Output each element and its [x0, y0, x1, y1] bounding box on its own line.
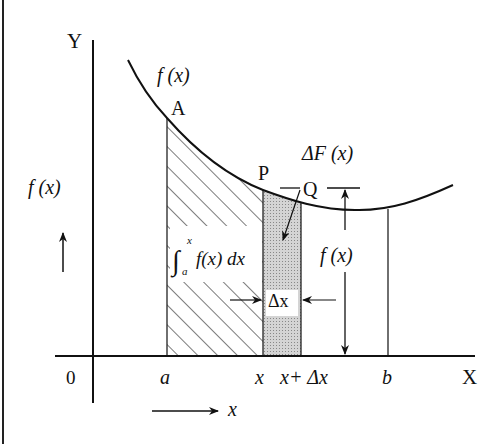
delta-x-label: Δx [268, 291, 289, 311]
integral-upper-limit: x [186, 234, 192, 246]
tick-a-label: a [160, 366, 170, 388]
point-q-label: Q [303, 178, 318, 200]
y-axis-label: Y [67, 29, 82, 53]
tick-b-label: b [382, 366, 392, 388]
integral-lower-limit: a [182, 265, 188, 277]
height-label: f (x) [320, 244, 353, 267]
delta-strip-region [263, 190, 301, 356]
tick-x-label: x [254, 366, 264, 388]
curve-label: f (x) [157, 64, 190, 87]
tick-x-plus-dx-label: x+ Δx [279, 366, 328, 388]
point-a-label: A [171, 97, 186, 119]
integral-diagram: Y X 0 f (x) A P Q ΔF (x) ∫ x a f(x) dx Δ… [0, 0, 497, 444]
y-direction-label: f (x) [28, 176, 61, 199]
delta-f-label: ΔF (x) [301, 142, 353, 165]
origin-label: 0 [66, 367, 76, 388]
point-p-label: P [258, 162, 269, 184]
x-axis-label: X [462, 365, 477, 389]
x-direction-label: x [227, 398, 237, 420]
integral-body: f(x) dx [196, 248, 246, 270]
